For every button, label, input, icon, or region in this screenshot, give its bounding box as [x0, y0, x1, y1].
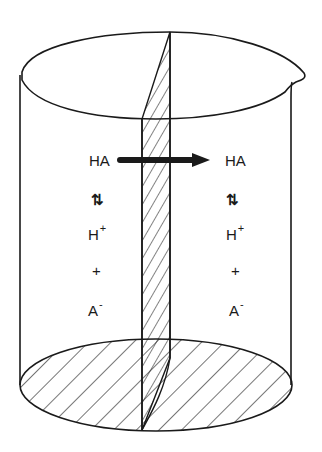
left-a-minus-label: A-	[88, 303, 103, 318]
right-ha-label: HA	[225, 153, 246, 168]
right-a-minus-label: A-	[229, 303, 244, 318]
left-equilibrium-arrows-icon: ⇅	[91, 192, 101, 207]
left-ha-label: HA	[89, 153, 110, 168]
membrane	[142, 32, 170, 430]
right-equilibrium-arrows-icon: ⇅	[226, 192, 236, 207]
right-h-plus-label: H+	[226, 227, 244, 242]
left-plus-sign: +	[92, 263, 101, 278]
right-plus-sign: +	[231, 263, 240, 278]
beaker-diagram	[0, 0, 322, 452]
left-h-plus-label: H+	[88, 227, 106, 242]
